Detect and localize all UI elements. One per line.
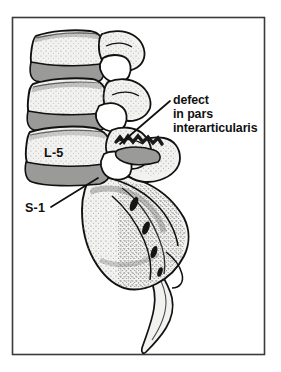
spine-illustration: defect in pars interarticularis L-5 S-1 [0,0,281,372]
s1-sacrum-label: S-1 [25,201,45,215]
defect-callout-line-2: in pars [173,107,213,121]
l5-vertebra-label: L-5 [44,146,64,160]
figure-root: defect in pars interarticularis L-5 S-1 [0,0,281,372]
facet-joint-l3-l4 [100,55,131,82]
disc-l5-s1 [25,162,110,186]
defect-callout-line-1: defect [173,93,209,107]
defect-callout-line-3: interarticularis [173,121,258,135]
disc-l5-s1-group [25,162,110,186]
facet-block-l3-l4 [100,55,131,82]
